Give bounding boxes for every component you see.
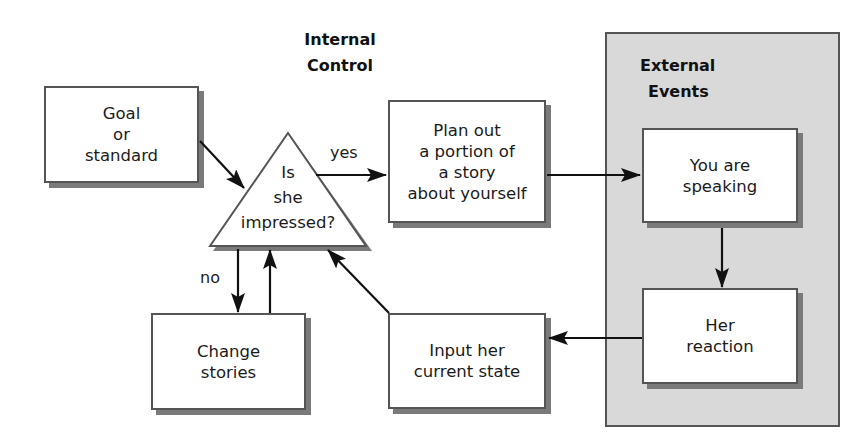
connector-layer — [0, 0, 866, 446]
yes-label: yes — [330, 143, 358, 162]
decision-line: impressed? — [228, 210, 348, 235]
decision-line: she — [228, 185, 348, 210]
arrow-input-to-decision — [328, 250, 389, 313]
no-label: no — [200, 268, 220, 287]
decision-text: Is she impressed? — [228, 160, 348, 235]
decision-line: Is — [228, 160, 348, 185]
